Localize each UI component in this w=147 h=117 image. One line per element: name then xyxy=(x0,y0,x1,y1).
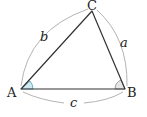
triangle-abc xyxy=(21,11,125,89)
side-c-arc-left xyxy=(23,92,64,103)
vertex-label-c: C xyxy=(87,0,97,13)
side-label-a: a xyxy=(120,35,128,50)
vertex-label-a: A xyxy=(6,85,17,100)
side-label-c: c xyxy=(70,95,78,110)
vertex-label-b: B xyxy=(127,85,137,100)
triangle-svg: C A B b a c xyxy=(0,0,147,117)
triangle-diagram: C A B b a c xyxy=(0,0,147,117)
side-b-arc xyxy=(21,9,88,86)
side-c-arc-right xyxy=(84,92,123,103)
side-label-b: b xyxy=(40,29,48,44)
